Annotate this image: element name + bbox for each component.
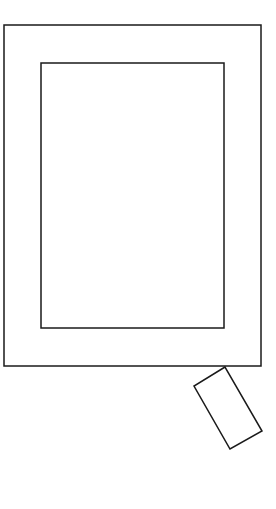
outer-frame xyxy=(4,25,261,366)
inner-panel xyxy=(41,63,224,328)
diagram-canvas xyxy=(0,0,276,509)
tilted-rect xyxy=(194,367,262,449)
